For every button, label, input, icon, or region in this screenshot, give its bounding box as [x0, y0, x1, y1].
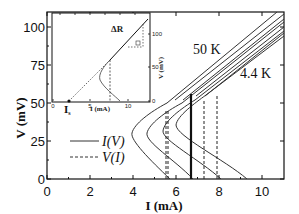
x-tick-label: 2 — [86, 184, 93, 199]
y-tick-label: 25 — [31, 134, 45, 149]
y-tick-label: 50 — [31, 96, 45, 111]
legend-label-vi: V(I) — [102, 150, 125, 166]
x-tick-label: 4 — [129, 184, 136, 199]
inset-x-tick: 10 — [125, 103, 132, 109]
iv-curve-7 — [196, 27, 284, 96]
x-tick-label: 6 — [172, 184, 179, 199]
x-tick-label: 10 — [255, 184, 269, 199]
iv-chart: 0 2 4 6 8 10 0 25 50 75 100 I (mA) V (mV… — [0, 0, 299, 214]
y-tick-label: 100 — [23, 20, 45, 35]
iv-curve-5 — [175, 14, 284, 100]
x-axis-label: I (mA) — [145, 198, 182, 213]
y-tick-label: 0 — [38, 172, 45, 187]
y-tick-label: 75 — [31, 58, 45, 73]
y-axis-label: V (mV) — [13, 97, 28, 138]
inset-y-label: V (mV) — [157, 56, 165, 79]
annotation-50k: 50 K — [193, 42, 221, 57]
iv-curve-3 — [163, 31, 284, 179]
inset-x-label: I (mA) — [90, 105, 111, 113]
inset-chart: 0 5 10 0 50 100 V (mV) I (mA) ΔR Is — [51, 13, 165, 116]
legend-label-iv: I(V) — [101, 134, 125, 150]
iv-curve-6 — [183, 19, 284, 100]
inset-y-tick: 100 — [152, 31, 163, 37]
inset-is-label: Is — [64, 103, 71, 116]
inset-y-tick: 0 — [152, 98, 156, 104]
annotation-4-4k: 4.4 K — [240, 66, 271, 81]
inset-x-tick: 0 — [51, 103, 55, 109]
x-tick-label: 8 — [215, 184, 222, 199]
inset-delta-r: ΔR — [111, 24, 124, 34]
legend: I(V) V(I) — [70, 134, 125, 166]
curves — [132, 12, 284, 179]
